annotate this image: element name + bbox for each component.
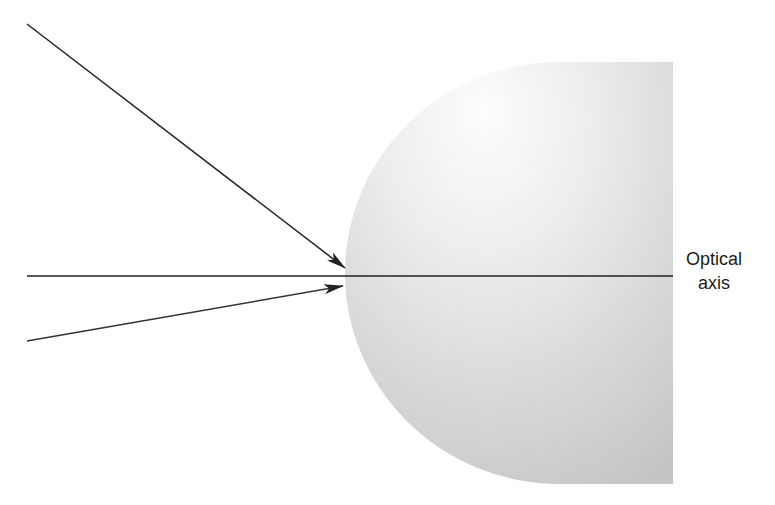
lens-body	[345, 62, 673, 484]
oblique-ray-lower	[27, 286, 343, 341]
optical-axis-label: Optical axis	[668, 247, 760, 295]
optical-axis-label-line1: Optical	[668, 247, 760, 271]
oblique-ray-upper	[27, 24, 345, 268]
optical-axis-label-line2: axis	[668, 271, 760, 295]
lens-diagram	[0, 0, 775, 505]
